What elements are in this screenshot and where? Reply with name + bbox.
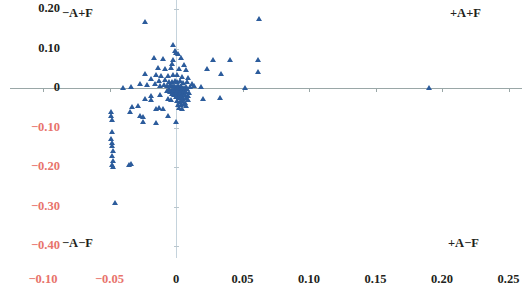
y-tick-label: −0.40 bbox=[31, 238, 60, 253]
x-tick-mark bbox=[509, 88, 510, 92]
data-point bbox=[255, 57, 261, 62]
data-point bbox=[198, 84, 204, 89]
data-point bbox=[173, 119, 179, 124]
data-point bbox=[170, 42, 176, 47]
data-point bbox=[168, 97, 174, 102]
y-tick-mark bbox=[174, 207, 179, 208]
data-point bbox=[142, 96, 148, 101]
y-tick-mark bbox=[174, 128, 179, 129]
y-tick-label: −0.30 bbox=[31, 199, 60, 214]
data-point bbox=[135, 103, 141, 108]
y-tick-label: 0.10 bbox=[38, 41, 60, 56]
data-point bbox=[160, 56, 166, 61]
data-point bbox=[204, 66, 210, 71]
data-point bbox=[142, 19, 148, 24]
data-point bbox=[128, 84, 134, 89]
data-point bbox=[242, 85, 248, 90]
data-point bbox=[168, 65, 174, 70]
y-tick-mark bbox=[174, 9, 179, 10]
data-point bbox=[110, 164, 116, 169]
quadrant-label-top-right: +A+F bbox=[450, 6, 481, 21]
data-point bbox=[255, 69, 261, 74]
x-tick-label: 0.20 bbox=[412, 272, 472, 287]
quadrant-label-top-left: −A+F bbox=[62, 6, 93, 21]
data-point bbox=[157, 92, 163, 97]
y-tick-label: −0.20 bbox=[31, 159, 60, 174]
data-point bbox=[217, 95, 223, 100]
x-tick-mark bbox=[309, 88, 310, 92]
data-point bbox=[200, 96, 206, 101]
x-tick-mark bbox=[442, 88, 443, 92]
x-tick-label: 0.10 bbox=[279, 272, 339, 287]
data-point bbox=[151, 55, 157, 60]
x-tick-label: 0.25 bbox=[479, 272, 526, 287]
y-tick-label: 0 bbox=[54, 80, 60, 95]
data-point bbox=[218, 71, 224, 76]
data-point bbox=[140, 119, 146, 124]
data-point bbox=[109, 117, 115, 122]
y-tick-label: 0.20 bbox=[38, 1, 60, 16]
quadrant-label-bottom-left: −A−F bbox=[62, 236, 93, 251]
x-tick-label: 0 bbox=[146, 272, 206, 287]
x-tick-mark bbox=[110, 88, 111, 92]
x-tick-label: −0.05 bbox=[80, 272, 140, 287]
data-point bbox=[210, 57, 216, 62]
data-point bbox=[256, 16, 262, 21]
data-point bbox=[144, 82, 150, 87]
y-tick-mark bbox=[174, 167, 179, 168]
data-point bbox=[137, 81, 143, 86]
data-point bbox=[155, 65, 161, 70]
data-point bbox=[191, 83, 197, 88]
x-tick-label: 0.15 bbox=[346, 272, 406, 287]
y-tick-label: −0.10 bbox=[31, 120, 60, 135]
x-tick-label: 0.05 bbox=[213, 272, 273, 287]
data-point bbox=[120, 85, 126, 90]
data-point bbox=[112, 200, 118, 205]
data-point bbox=[227, 57, 233, 62]
data-point bbox=[176, 66, 182, 71]
data-point bbox=[183, 67, 189, 72]
data-point bbox=[178, 55, 184, 60]
data-point bbox=[128, 161, 134, 166]
data-point bbox=[160, 106, 166, 111]
x-axis-line bbox=[10, 88, 522, 89]
y-tick-mark bbox=[174, 246, 179, 247]
data-point bbox=[179, 106, 185, 111]
data-point bbox=[127, 109, 133, 114]
quadrant-label-bottom-right: +A−F bbox=[448, 236, 479, 251]
y-axis-line bbox=[176, 0, 177, 258]
x-tick-mark bbox=[376, 88, 377, 92]
x-tick-label: −0.10 bbox=[13, 272, 73, 287]
data-point bbox=[109, 129, 115, 134]
data-point bbox=[426, 85, 432, 90]
data-point bbox=[165, 113, 171, 118]
x-tick-mark bbox=[43, 88, 44, 92]
data-point bbox=[148, 97, 154, 102]
data-point bbox=[153, 120, 159, 125]
